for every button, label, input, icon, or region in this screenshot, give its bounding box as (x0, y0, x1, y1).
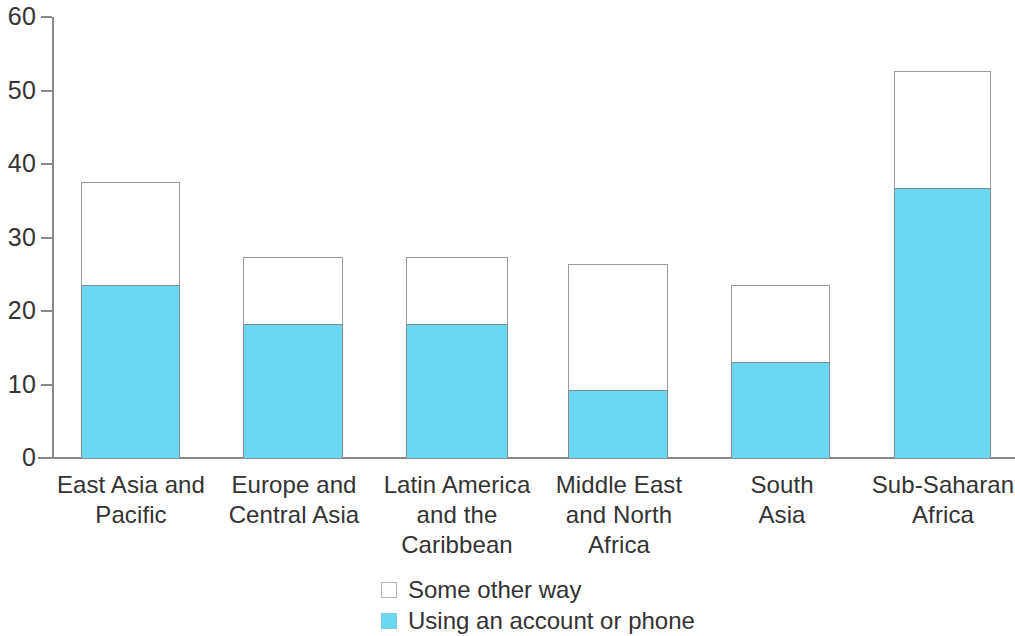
y-axis-tick-label: 0 (0, 445, 36, 470)
y-axis-tick (41, 163, 52, 165)
stacked-bar-chart: 0102030405060 East Asia andPacificEurope… (0, 0, 1015, 636)
bar-group[interactable] (894, 71, 991, 458)
bar-group[interactable] (731, 285, 830, 458)
x-axis-category-label-line: and the (371, 500, 543, 530)
bar-segment-using-an-account-or-phone[interactable] (731, 362, 830, 458)
legend-label-using-an-account-or-phone: Using an account or phone (408, 607, 695, 635)
y-axis-tick-label: 40 (0, 151, 36, 176)
x-axis-category-label-line: Asia (696, 500, 868, 530)
bar-segment-using-an-account-or-phone[interactable] (81, 285, 180, 458)
y-axis-tick-label: 30 (0, 225, 36, 250)
x-axis-category-label-line: Caribbean (371, 530, 543, 560)
x-axis-category-label-line: Central Asia (208, 500, 380, 530)
y-axis-line (52, 17, 54, 459)
x-axis-category-label: Middle Eastand NorthAfrica (533, 470, 705, 560)
y-axis-tick-label: 50 (0, 78, 36, 103)
y-axis-tick (41, 90, 52, 92)
bar-group[interactable] (243, 257, 343, 458)
bar-group[interactable] (568, 264, 668, 458)
y-axis-tick (41, 237, 52, 239)
legend-item-some-other-way[interactable]: Some other way (381, 574, 695, 605)
bar-segment-using-an-account-or-phone[interactable] (243, 324, 343, 459)
x-axis-category-label-line: Middle East (533, 470, 705, 500)
y-axis-tick-label: 10 (0, 372, 36, 397)
bar-group[interactable] (406, 257, 508, 458)
legend-swatch-some-other-way-icon (381, 582, 397, 598)
legend-swatch-using-an-account-or-phone-icon (381, 613, 397, 629)
legend-label-some-other-way: Some other way (408, 576, 581, 604)
x-axis-category-label-line: Europe and (208, 470, 380, 500)
y-axis-tick (41, 16, 52, 18)
bar-segment-using-an-account-or-phone[interactable] (406, 324, 508, 459)
y-axis-tick (41, 310, 52, 312)
legend-item-using-an-account-or-phone[interactable]: Using an account or phone (381, 605, 695, 636)
x-axis-category-label: SouthAsia (696, 470, 868, 530)
x-axis-line (38, 457, 1015, 459)
x-axis-category-label-line: East Asia and (45, 470, 217, 500)
y-axis-tick-label: 20 (0, 298, 36, 323)
x-axis-category-label-line: Latin America (371, 470, 543, 500)
x-axis-category-label: East Asia andPacific (45, 470, 217, 530)
x-axis-category-label: Sub-SaharanAfrica (857, 470, 1015, 530)
bar-segment-using-an-account-or-phone[interactable] (894, 188, 991, 458)
x-axis-category-label: Europe andCentral Asia (208, 470, 380, 530)
x-axis-category-label-line: Africa (533, 530, 705, 560)
x-axis-category-label-line: and North (533, 500, 705, 530)
bar-segment-using-an-account-or-phone[interactable] (568, 390, 668, 458)
chart-legend: Some other way Using an account or phone (381, 574, 695, 636)
x-axis-category-label-line: Sub-Saharan (857, 470, 1015, 500)
y-axis-tick-label: 60 (0, 4, 36, 29)
y-axis-tick (41, 384, 52, 386)
y-axis-tick (41, 457, 52, 459)
x-axis-category-label-line: Pacific (45, 500, 217, 530)
bar-group[interactable] (81, 182, 180, 458)
x-axis-category-label-line: South (696, 470, 868, 500)
x-axis-category-label: Latin Americaand theCaribbean (371, 470, 543, 560)
x-axis-category-label-line: Africa (857, 500, 1015, 530)
